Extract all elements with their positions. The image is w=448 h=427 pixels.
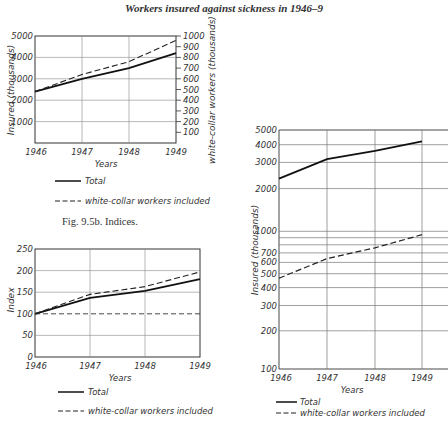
svg-text:600: 600 [183, 74, 199, 84]
svg-text:1949: 1949 [411, 373, 433, 383]
svg-text:Years: Years [341, 385, 364, 395]
svg-text:300: 300 [183, 106, 199, 116]
svg-text:50: 50 [22, 330, 33, 340]
svg-text:Insured (thousands): Insured (thousands) [6, 45, 16, 135]
svg-text:200: 200 [17, 266, 33, 276]
svg-text:Total: Total [88, 387, 109, 397]
svg-text:white-collar workers (thousand: white-collar workers (thousands) [207, 16, 217, 164]
svg-text:Total: Total [85, 176, 106, 186]
svg-text:2000: 2000 [255, 184, 277, 194]
svg-text:1947: 1947 [316, 373, 338, 383]
svg-text:5000: 5000 [255, 125, 277, 135]
svg-text:400: 400 [183, 95, 199, 105]
svg-text:1946: 1946 [270, 373, 292, 383]
svg-text:300: 300 [261, 301, 277, 311]
svg-text:1949: 1949 [165, 147, 187, 157]
svg-text:1947: 1947 [79, 361, 101, 371]
svg-text:Total: Total [300, 397, 321, 407]
svg-text:white-collar workers included: white-collar workers included [88, 406, 214, 416]
chart-absolute: 5000 4000 3000 2000 1000 1000 900 800 70… [6, 16, 217, 206]
svg-text:3000: 3000 [255, 157, 277, 167]
series-total [35, 279, 200, 314]
svg-text:600: 600 [261, 257, 277, 267]
svg-text:1948: 1948 [118, 147, 140, 157]
svg-text:700: 700 [183, 63, 199, 73]
series-total [279, 141, 422, 178]
svg-text:white-collar workers included: white-collar workers included [300, 408, 426, 418]
svg-text:100: 100 [183, 127, 199, 137]
svg-text:1000: 1000 [183, 31, 205, 41]
svg-text:4000: 4000 [255, 140, 277, 150]
svg-text:200: 200 [183, 117, 199, 127]
svg-text:Years: Years [109, 373, 132, 383]
charts-canvas: 5000 4000 3000 2000 1000 1000 900 800 70… [0, 0, 448, 427]
svg-text:500: 500 [261, 269, 277, 279]
svg-text:1947: 1947 [71, 147, 93, 157]
svg-text:900: 900 [183, 42, 199, 52]
figure-caption: Fig. 9.5b. Indices. [62, 216, 138, 227]
svg-text:1946: 1946 [25, 361, 47, 371]
svg-text:1946: 1946 [25, 147, 47, 157]
svg-text:5000: 5000 [11, 31, 33, 41]
svg-text:800: 800 [183, 52, 199, 62]
svg-text:1948: 1948 [364, 373, 386, 383]
svg-text:200: 200 [261, 326, 277, 336]
svg-text:Index: Index [6, 287, 16, 313]
svg-text:white-collar workers included: white-collar workers included [85, 196, 211, 206]
svg-text:400: 400 [261, 283, 277, 293]
svg-text:100: 100 [17, 309, 33, 319]
series-white-collar [279, 235, 422, 279]
svg-text:1949: 1949 [189, 361, 211, 371]
series-white-collar [35, 40, 176, 91]
svg-text:500: 500 [183, 85, 199, 95]
svg-text:Insured (thousands): Insured (thousands) [250, 205, 260, 295]
svg-text:150: 150 [17, 287, 33, 297]
chart-indices: 250 200 150 100 50 0 1946 1947 1948 1949… [6, 244, 214, 416]
series-total [35, 53, 176, 92]
svg-text:1948: 1948 [134, 361, 156, 371]
svg-text:700: 700 [261, 248, 277, 258]
chart-log: 5000 4000 3000 2000 1000 700 600 500 400… [250, 125, 448, 418]
svg-text:Years: Years [95, 159, 118, 169]
svg-text:250: 250 [17, 244, 33, 254]
